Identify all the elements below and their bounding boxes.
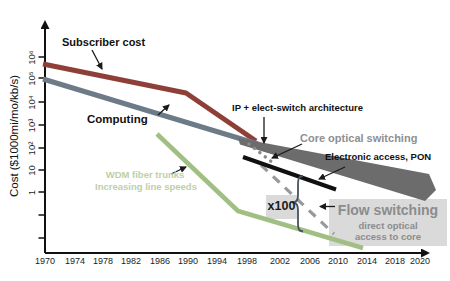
- x100-label: x100: [266, 199, 297, 213]
- computing-label: Computing: [87, 113, 148, 125]
- flow-switching-sub-label-1: direct optical: [329, 220, 447, 231]
- wdm-fiber-label-line2: Increasing line speeds: [86, 181, 206, 192]
- x-tick-1998: 1998: [231, 256, 263, 266]
- flow-switching-label: Flow switching: [329, 202, 447, 218]
- x-tick-2020: 2020: [404, 256, 436, 266]
- ip-elect-switch-label: IP + elect-switch architecture: [232, 102, 363, 113]
- x-tick-2002: 2002: [264, 256, 296, 266]
- y-axis-title: Cost ($1000mi/mo/kb/s): [7, 26, 21, 246]
- x-tick-2010: 2010: [322, 256, 354, 266]
- core-optical-label: Core optical switching: [300, 132, 417, 144]
- subscriber-cost-line: [43, 64, 256, 141]
- electronic-access-label: Electronic access, PON: [325, 151, 431, 162]
- subscriber-cost-arrow: [92, 50, 102, 69]
- x-tick-1990: 1990: [172, 256, 204, 266]
- cost-trend-chart: Cost ($1000mi/mo/kb/s) 10⁶ 10⁵ 10⁴ 10³ 1…: [0, 0, 450, 281]
- x-tick-1994: 1994: [201, 256, 233, 266]
- subscriber-cost-label: Subscriber cost: [62, 36, 145, 48]
- wdm-fiber-label-line1: WDM fiber trunks: [95, 169, 195, 180]
- y-tick-label-1: 1: [26, 175, 37, 209]
- computing-line: [43, 79, 258, 144]
- flow-switching-sub-label-2: access to core: [329, 231, 447, 242]
- x-tick-1982: 1982: [115, 256, 147, 266]
- x-tick-1970: 1970: [29, 256, 61, 266]
